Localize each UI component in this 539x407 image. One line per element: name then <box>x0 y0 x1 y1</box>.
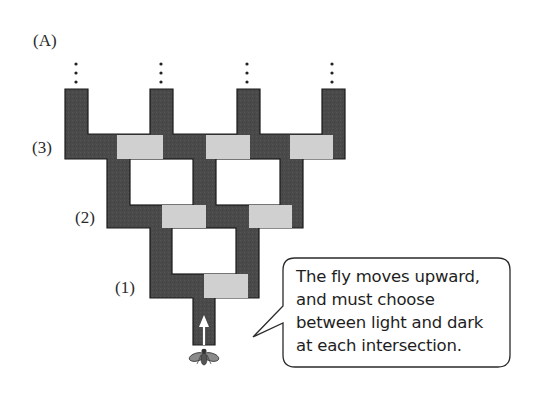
maze-wall-block <box>216 159 280 205</box>
level-label-1: (1) <box>115 279 135 296</box>
level-label-2: (2) <box>75 209 95 226</box>
panel-label: (A) <box>33 32 57 49</box>
light-segment-level3-c <box>290 135 333 159</box>
callout-line-4: at each intersection. <box>296 334 506 357</box>
light-segment-level3-a <box>117 135 163 159</box>
callout-text: The fly moves upward, and must choose be… <box>296 265 506 357</box>
light-segment-level1 <box>204 274 248 298</box>
light-segment-level2-b <box>249 205 292 228</box>
light-segment-level3-b <box>206 135 250 159</box>
callout-line-3: between light and dark <box>296 311 506 334</box>
callout-line-1: The fly moves upward, <box>296 265 506 288</box>
callout-line-2: and must choose <box>296 288 506 311</box>
maze-figure: (A) (3) (2) (1) The fly moves upward, an… <box>0 0 539 407</box>
fly-icon <box>188 349 220 365</box>
maze-wall-block <box>130 159 193 205</box>
continuation-dots <box>74 62 333 83</box>
light-segment-level2-a <box>162 205 206 228</box>
maze-wall-block <box>172 228 236 274</box>
level-label-3: (3) <box>32 139 52 156</box>
